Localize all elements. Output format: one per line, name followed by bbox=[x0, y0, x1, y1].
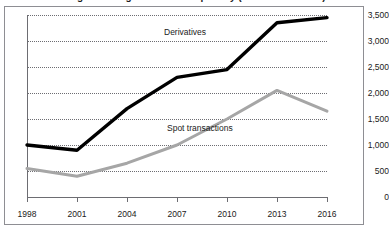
figure-frame: 05001,0001,5002,0002,5003,0003,500 19982… bbox=[4, 6, 364, 225]
x-axis-tick-label: 1998 bbox=[18, 209, 37, 219]
y-axis-tick-label: 2,500 bbox=[357, 62, 389, 72]
x-axis-tick bbox=[227, 197, 228, 202]
series-line-spot-transactions bbox=[27, 90, 327, 176]
x-axis-tick bbox=[127, 197, 128, 202]
x-axis-tick bbox=[327, 197, 328, 202]
x-axis-tick-label: 2007 bbox=[168, 209, 187, 219]
x-axis-tick-label: 2013 bbox=[268, 209, 287, 219]
chart-title-strip: Number of foreign exchange transactions … bbox=[0, 0, 369, 5]
x-axis-tick bbox=[77, 197, 78, 202]
y-axis-tick-label: 0 bbox=[357, 192, 389, 202]
x-axis-tick-label: 2016 bbox=[318, 209, 337, 219]
y-axis-tick-label: 1,000 bbox=[357, 140, 389, 150]
y-axis-tick-label: 1,500 bbox=[357, 114, 389, 124]
x-axis-tick bbox=[277, 197, 278, 202]
x-axis-tick bbox=[27, 197, 28, 202]
series-label-spot-transactions: Spot transactions bbox=[167, 123, 233, 133]
chart-data-layer bbox=[27, 15, 327, 197]
y-axis-tick-label: 3,000 bbox=[357, 36, 389, 46]
x-axis-tick-label: 2010 bbox=[218, 209, 237, 219]
plot-area: 05001,0001,5002,0002,5003,0003,500 19982… bbox=[27, 15, 327, 197]
y-axis-tick-label: 3,500 bbox=[357, 10, 389, 20]
x-axis-tick bbox=[177, 197, 178, 202]
y-axis-tick-label: 2,000 bbox=[357, 88, 389, 98]
x-axis-tick-label: 2004 bbox=[118, 209, 137, 219]
page-title: Number of foreign exchange transactions … bbox=[4, 0, 326, 2]
x-axis-tick-label: 2001 bbox=[68, 209, 87, 219]
y-axis-tick-label: 500 bbox=[357, 166, 389, 176]
series-label-derivatives: Derivatives bbox=[164, 27, 206, 37]
